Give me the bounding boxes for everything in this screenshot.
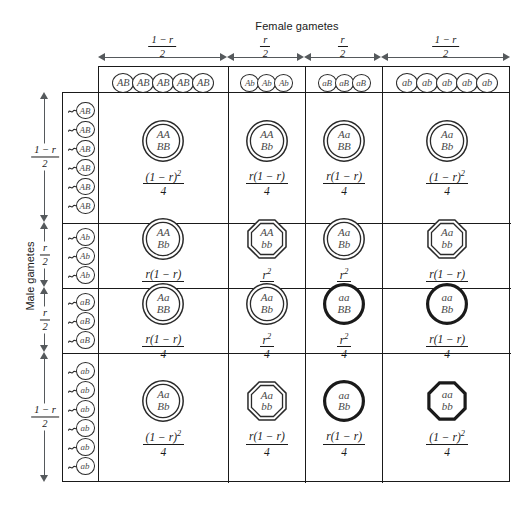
male-frequency-fraction: 1 − r2 xyxy=(31,144,59,169)
punnett-cell: AaBbr24 xyxy=(228,288,305,353)
zygote: AaBB xyxy=(141,282,185,326)
zygote-genotype: AABB xyxy=(157,129,170,153)
fraction-numerator: 1 − r xyxy=(31,404,59,417)
sperm-cell-AB: AB xyxy=(68,101,95,120)
sperm-head-ab: ab xyxy=(76,362,95,379)
male-frequency-band-aB: r2 xyxy=(28,287,62,352)
zygote-frequency: (1 − r)24 xyxy=(426,170,468,198)
fraction-denominator: 2 xyxy=(260,47,270,59)
fraction-exponent: 2 xyxy=(344,267,348,276)
sperm-cell-AB: AB xyxy=(68,120,95,139)
arrow-right-icon xyxy=(374,53,381,61)
female-frequency-label: 1 − r2 xyxy=(432,34,460,59)
fraction-numerator: 1 − r xyxy=(432,34,460,47)
zygote-genotype: AaBb xyxy=(441,129,453,153)
fraction-denominator: 2 xyxy=(338,47,348,59)
zygote: aabb xyxy=(425,379,469,423)
arrow-right-icon xyxy=(297,53,304,61)
zygote-genotype: AaBb xyxy=(261,292,273,316)
zygote: AaBb xyxy=(141,379,185,423)
fraction-denominator: 4 xyxy=(426,445,468,458)
sperm-cell-AB: AB xyxy=(68,177,95,196)
zygote-genotype: aaBb xyxy=(441,292,453,316)
fraction-numerator: 1 − r xyxy=(149,34,177,47)
zygote: aaBb xyxy=(425,282,469,326)
sperm-head-aB: aB xyxy=(76,293,95,310)
male-gamete-group-Ab: AbAbAb xyxy=(63,223,99,288)
sperm-head-ab: ab xyxy=(76,457,95,474)
genotype-locus-b: Bb xyxy=(441,304,453,316)
male-gamete-group-aB: aBaBaB xyxy=(63,288,99,353)
sperm-cell-ab: ab xyxy=(68,400,95,419)
arrow-right-icon xyxy=(503,53,510,61)
fraction-denominator: 2 xyxy=(149,47,177,59)
fraction-numerator: (1 − r)2 xyxy=(426,170,468,185)
punnett-cell: AaBbr24 xyxy=(305,223,382,288)
sperm-head-AB: AB xyxy=(76,159,95,176)
egg-cell-AB: AB xyxy=(132,73,154,93)
punnett-cell: AABbr(1 − r)4 xyxy=(99,223,228,288)
sperm-head-aB: aB xyxy=(76,312,95,329)
egg-cell-ab: ab xyxy=(476,73,498,93)
egg-cell-AB: AB xyxy=(192,73,214,93)
arrow-down-icon xyxy=(40,215,48,222)
zygote: AaBb xyxy=(322,217,366,261)
sperm-head-AB: AB xyxy=(76,178,95,195)
genotype-locus-b: Bb xyxy=(338,401,350,413)
zygote-genotype: AABb xyxy=(157,227,170,251)
arrow-up-icon xyxy=(40,287,48,294)
zygote-genotype: AaBB xyxy=(337,129,350,153)
female-frequency-label: 1 − r2 xyxy=(149,34,177,59)
fraction-numerator: r(1 − r) xyxy=(426,268,468,282)
genotype-locus-a: Aa xyxy=(441,129,453,141)
zygote-frequency: (1 − r)24 xyxy=(143,170,185,198)
sperm-head-AB: AB xyxy=(76,140,95,157)
genotype-locus-a: Aa xyxy=(261,292,273,304)
sperm-head-ab: ab xyxy=(76,438,95,455)
genotype-locus-b: bb xyxy=(260,239,273,251)
zygote-genotype: AAbb xyxy=(260,227,273,251)
fraction-denominator: 2 xyxy=(40,320,50,332)
zygote: AABb xyxy=(141,217,185,261)
fraction-denominator: 4 xyxy=(323,445,365,458)
female-frequency-band-Ab: r2 xyxy=(227,36,304,66)
fraction-numerator: r xyxy=(338,34,348,47)
fraction-numerator: r(1 − r) xyxy=(246,170,288,184)
zygote: AABB xyxy=(141,119,185,163)
fraction-exponent: 2 xyxy=(177,429,181,438)
zygote-genotype: AABb xyxy=(260,129,273,153)
zygote: Aabb xyxy=(425,217,469,261)
male-gamete-header-column: ABABABABABABAbAbAbaBaBaBabababababab xyxy=(62,92,100,482)
punnett-square-grid: AABB(1 − r)24AABbr(1 − r)4AaBBr(1 − r)4A… xyxy=(98,92,510,482)
zygote: AABb xyxy=(245,119,289,163)
egg-cell-ab: ab xyxy=(396,73,418,93)
female-frequency-fraction: 1 − r2 xyxy=(149,34,177,59)
punnett-cell: AABB(1 − r)24 xyxy=(99,93,228,223)
fraction-exponent: 2 xyxy=(461,429,465,438)
punnett-cell: AaBBr(1 − r)4 xyxy=(99,288,228,353)
female-gametes-title: Female gametes xyxy=(0,20,518,32)
sperm-cell-aB: aB xyxy=(68,331,95,350)
arrow-down-icon xyxy=(40,280,48,287)
fraction-denominator: 4 xyxy=(246,445,288,458)
egg-cell-ab: ab xyxy=(436,73,458,93)
arrow-left-icon xyxy=(304,53,311,61)
punnett-cell: aabb(1 − r)24 xyxy=(382,353,511,483)
fraction-numerator: (1 − r)2 xyxy=(143,430,185,445)
sperm-cell-AB: AB xyxy=(68,196,95,215)
zygote: AaBb xyxy=(425,119,469,163)
female-frequency-fraction: r2 xyxy=(260,34,270,59)
male-frequency-band-ab: 1 − r2 xyxy=(28,352,62,482)
arrow-left-icon xyxy=(227,53,234,61)
female-frequency-fraction: 1 − r2 xyxy=(432,34,460,59)
sperm-cell-Ab: Ab xyxy=(68,228,95,247)
genotype-locus-b: Bb xyxy=(261,304,273,316)
sperm-cell-ab: ab xyxy=(68,457,95,476)
fraction-denominator: 4 xyxy=(426,184,468,197)
fraction-numerator: r2 xyxy=(337,333,352,348)
fraction-denominator: 2 xyxy=(31,158,59,170)
sperm-head-Ab: Ab xyxy=(76,228,95,245)
female-frequency-band-aB: r2 xyxy=(304,36,381,66)
sperm-cell-AB: AB xyxy=(68,158,95,177)
punnett-cell: AaBb(1 − r)24 xyxy=(382,93,511,223)
